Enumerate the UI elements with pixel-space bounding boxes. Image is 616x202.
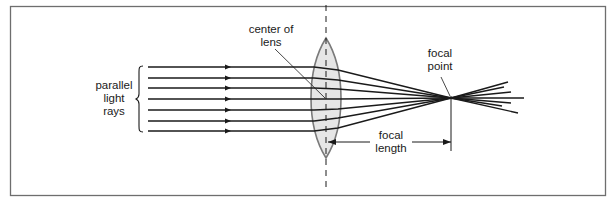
label-focal-length: focal length — [370, 129, 412, 155]
label-line: length — [370, 142, 412, 155]
label-line: focal — [420, 47, 460, 60]
ray-direction-arrows — [225, 65, 231, 134]
parallel-rays-bracket — [136, 66, 143, 132]
label-line: rays — [92, 105, 136, 118]
focal-point-marker — [449, 96, 453, 100]
label-line: point — [420, 60, 460, 73]
diverging-rays — [451, 82, 524, 113]
label-center-of-lens: center of lens — [240, 23, 302, 49]
label-line: light — [92, 92, 136, 105]
label-focal-point: focal point — [420, 47, 460, 73]
focal-point-leader — [441, 77, 450, 96]
label-line: parallel — [92, 79, 136, 92]
label-line: center of — [240, 23, 302, 36]
label-line: focal — [370, 129, 412, 142]
label-line: lens — [240, 36, 302, 49]
label-parallel-light-rays: parallel light rays — [92, 79, 136, 118]
